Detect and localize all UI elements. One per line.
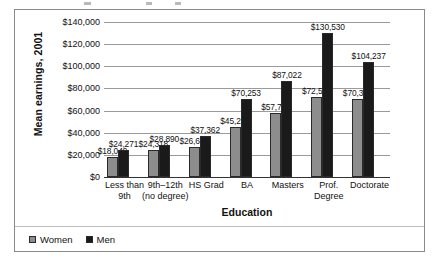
y-axis-tick-label: $40,000 bbox=[67, 128, 100, 138]
bar-women bbox=[352, 99, 363, 177]
bar-group: $26,690$37,362 bbox=[186, 22, 227, 177]
bar-group: $18,049$24,271 bbox=[104, 22, 145, 177]
y-axis-tick-label: $100,000 bbox=[62, 61, 100, 71]
x-axis-tick-label: Prof. Degree bbox=[314, 180, 344, 201]
chart-legend: WomenMen bbox=[29, 234, 115, 245]
x-axis-tick-label: BA bbox=[241, 180, 253, 191]
bar-group: $72,568$130,530 bbox=[308, 22, 349, 177]
x-axis-tick-label: 9th–12th (no degree) bbox=[142, 180, 189, 201]
x-axis-title: Education bbox=[104, 206, 390, 218]
y-axis-tick-label: $20,000 bbox=[67, 150, 100, 160]
legend-label: Men bbox=[97, 234, 115, 245]
bar-group: $57,700$87,022 bbox=[267, 22, 308, 177]
legend-swatch-men bbox=[86, 236, 93, 243]
bar-value-label: $87,022 bbox=[272, 70, 302, 80]
scan-artifacts bbox=[0, 0, 439, 9]
y-axis-title: Mean earnings, 2001 bbox=[32, 14, 44, 154]
plot-area: $0$20,000$40,000$60,000$80,000$100,000$1… bbox=[104, 22, 390, 177]
bar-men bbox=[159, 145, 170, 177]
bar-women bbox=[107, 157, 118, 177]
bar-chart: Mean earnings, 2001 $0$20,000$40,000$60,… bbox=[15, 10, 424, 208]
y-axis-tick-label: $140,000 bbox=[62, 17, 100, 27]
y-axis-tick-label: $120,000 bbox=[62, 39, 100, 49]
bar-men bbox=[363, 62, 374, 177]
chart-figure: Mean earnings, 2001 $0$20,000$40,000$60,… bbox=[14, 9, 425, 252]
legend-swatch-women bbox=[29, 236, 36, 243]
bar-men bbox=[241, 99, 252, 177]
x-axis-tick-label: HS Grad bbox=[189, 180, 224, 191]
bar-value-label: $104,237 bbox=[352, 51, 386, 61]
bar-men bbox=[200, 136, 211, 177]
bar-value-label: $24,271 bbox=[109, 139, 139, 149]
bar-women bbox=[189, 147, 200, 177]
bar-women bbox=[270, 113, 281, 177]
bar-group: $70,302$104,237 bbox=[349, 22, 390, 177]
bar-value-label: $130,530 bbox=[311, 22, 345, 32]
bar-men bbox=[118, 150, 129, 177]
bar-women bbox=[311, 97, 322, 177]
y-axis-tick-label: $60,000 bbox=[67, 106, 100, 116]
bar-value-label: $70,253 bbox=[231, 88, 261, 98]
legend-item-women[interactable]: Women bbox=[29, 234, 73, 245]
axis-baseline bbox=[104, 177, 390, 178]
legend-label: Women bbox=[40, 234, 73, 245]
x-axis-tick-label: Masters bbox=[272, 180, 304, 191]
legend-divider bbox=[15, 226, 424, 227]
bar-value-label: $37,362 bbox=[190, 125, 220, 135]
bar-group: $24,318$28,890 bbox=[145, 22, 186, 177]
bar-value-label: $28,890 bbox=[150, 134, 180, 144]
bar-women bbox=[148, 150, 159, 177]
y-axis-tick-label: $80,000 bbox=[67, 83, 100, 93]
bar-group: $45,290$70,253 bbox=[227, 22, 268, 177]
y-axis-tick-label: $0 bbox=[90, 172, 100, 182]
x-axis-tick-label: Less than 9th bbox=[105, 180, 144, 201]
bar-men bbox=[322, 33, 333, 178]
x-axis-tick-label: Doctorate bbox=[350, 180, 389, 191]
legend-item-men[interactable]: Men bbox=[86, 234, 115, 245]
bar-groups: $18,049$24,271$24,318$28,890$26,690$37,3… bbox=[104, 22, 390, 177]
bar-women bbox=[230, 127, 241, 177]
bar-men bbox=[281, 81, 292, 177]
